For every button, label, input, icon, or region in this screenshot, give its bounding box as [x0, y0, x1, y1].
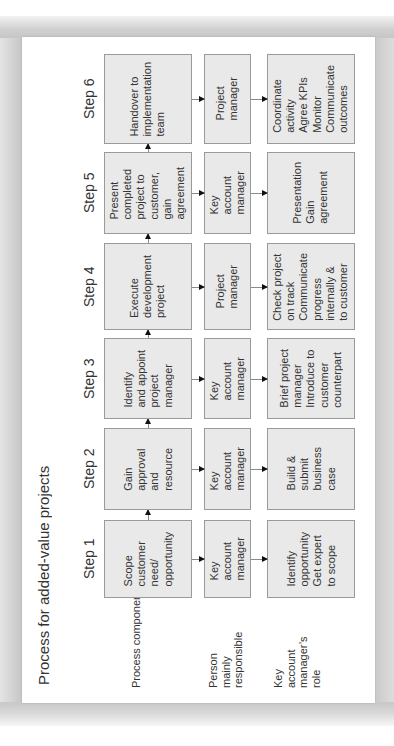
text-line: account — [221, 357, 234, 400]
text-line: project to — [135, 167, 148, 220]
text-line: Brief project — [278, 349, 291, 408]
process-text: Scopecustomerneed/opportunity — [122, 532, 175, 586]
step-5-process-box: Presentcompletedproject tocustomer,gaina… — [104, 152, 192, 234]
text-line: Agree KPIs — [298, 65, 311, 133]
role-text: Build &submitbusinesscase — [285, 447, 338, 490]
step-label: Step 5 — [81, 152, 98, 234]
arrow-to-person — [192, 193, 204, 194]
text-line: and appoint — [135, 350, 148, 408]
text-line: Key — [208, 357, 221, 400]
text-line: Project — [214, 77, 227, 120]
text-line: agreement — [174, 167, 187, 220]
step-4-person-box: Projectmanager — [204, 243, 251, 330]
text-line: Handover to — [128, 62, 141, 137]
text-line: Get expert — [311, 532, 324, 586]
text-line: account — [221, 537, 234, 580]
role-text: IdentifyopportunityGet expertto scope — [285, 532, 338, 586]
text-line: agreement — [318, 162, 331, 224]
text-line: outcomes — [337, 65, 350, 133]
arrow-to-role — [251, 287, 267, 288]
person-text: Projectmanager — [214, 265, 240, 308]
text-line: Monitor — [311, 65, 324, 133]
step-label: Step 6 — [81, 54, 98, 144]
text-line: implementation — [141, 62, 154, 137]
process-text: Gainapprovalandresource — [122, 448, 175, 491]
role-text: PresentationGainagreement — [291, 162, 331, 224]
step-3-role-box: Brief projectmanagerIntroduce tocustomer… — [267, 338, 355, 419]
text-line: case — [324, 447, 337, 490]
text-line: and — [148, 448, 161, 491]
person-text: Keyaccountmanager — [208, 537, 248, 580]
text-line: manager — [291, 349, 304, 408]
step-1-role-box: IdentifyopportunityGet expertto scope — [267, 520, 355, 598]
text-line: Present — [108, 167, 121, 220]
text-line: project — [155, 255, 168, 318]
text-line: customer, — [148, 167, 161, 220]
text-line: manager — [234, 171, 247, 214]
person-text: Keyaccountmanager — [208, 357, 248, 400]
process-text: Presentcompletedproject tocustomer,gaina… — [108, 167, 187, 220]
text-line: to customer — [337, 253, 350, 321]
arrow-to-next-step — [148, 144, 149, 152]
text-line: on track — [285, 253, 298, 321]
arrow-to-next-step — [148, 419, 149, 428]
process-text: Identifyand appointprojectmanager — [122, 350, 175, 408]
text-line: account — [221, 171, 234, 214]
text-line: opportunity — [161, 532, 174, 586]
text-line: Gain — [304, 162, 317, 224]
arrow-to-person — [192, 469, 204, 470]
text-line: Execute — [128, 255, 141, 318]
arrow-to-person — [192, 287, 204, 288]
text-line: completed — [122, 167, 135, 220]
step-2-process-box: Gainapprovalandresource — [104, 428, 192, 510]
text-line: Identify — [285, 532, 298, 586]
arrow-to-role — [251, 99, 267, 100]
row-label-kam-role: Key account manager’s role — [272, 630, 312, 688]
step-2-role-box: Build &submitbusinesscase — [267, 428, 355, 510]
text-line: progress — [311, 253, 324, 321]
step-5-role-box: PresentationGainagreement — [267, 152, 355, 234]
text-line: manager — [234, 357, 247, 400]
row-label-person-responsible: Person mainly responsible — [207, 630, 247, 688]
text-line: account — [221, 447, 234, 490]
row-label-process-component: Process component — [130, 630, 143, 688]
row-label-person-text: Person mainly responsible — [207, 632, 244, 688]
step-label: Step 1 — [81, 520, 98, 598]
text-line: business — [311, 447, 324, 490]
person-text: Projectmanager — [214, 77, 240, 120]
step-6-role-box: CoordinateactivityAgree KPIsMonitorCommu… — [267, 54, 355, 144]
step-label: Step 4 — [81, 243, 98, 330]
text-line: Introduce to — [304, 349, 317, 408]
text-line: manager — [161, 350, 174, 408]
role-text: CoordinateactivityAgree KPIsMonitorCommu… — [271, 65, 350, 133]
arrow-to-person — [192, 379, 204, 380]
role-text: Brief projectmanagerIntroduce tocustomer… — [278, 349, 344, 408]
arrow-to-role — [251, 469, 267, 470]
text-line: Build & — [285, 447, 298, 490]
text-line: team — [155, 62, 168, 137]
text-line: project — [148, 350, 161, 408]
arrow-to-role — [251, 193, 267, 194]
text-line: to scope — [324, 532, 337, 586]
diagram-title: Process for added-value projects — [35, 495, 53, 685]
text-line: Identify — [122, 350, 135, 408]
text-line: submit — [298, 447, 311, 490]
step-1-person-box: Keyaccountmanager — [204, 520, 251, 598]
role-text: Check projecton trackCommunicateprogress… — [271, 253, 350, 321]
text-line: need/ — [148, 532, 161, 586]
text-line: Key — [208, 171, 221, 214]
text-line: gain — [161, 167, 174, 220]
text-line: Presentation — [291, 162, 304, 224]
text-line: Gain — [122, 448, 135, 491]
step-4-role-box: Check projecton trackCommunicateprogress… — [267, 243, 355, 330]
text-line: customer — [135, 532, 148, 586]
text-line: manager — [234, 537, 247, 580]
arrow-to-role — [251, 559, 267, 560]
text-line: resource — [161, 448, 174, 491]
text-line: Communicate — [298, 253, 311, 321]
step-4-process-box: Executedevelopmentproject — [104, 243, 192, 330]
text-line: approval — [135, 448, 148, 491]
text-line: counterpart — [331, 349, 344, 408]
step-3-person-box: Keyaccountmanager — [204, 338, 251, 419]
step-5-person-box: Keyaccountmanager — [204, 152, 251, 234]
